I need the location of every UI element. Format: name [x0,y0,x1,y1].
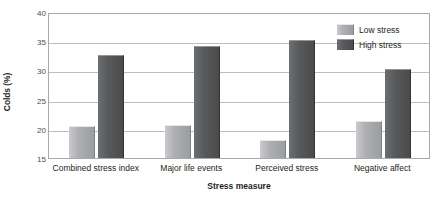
y-tick-label: 30 [20,67,46,76]
legend-swatch-icon [337,39,354,50]
legend-item[interactable]: Low stress [337,22,402,37]
y-tick-label: 40 [20,9,46,18]
legend-swatch-icon [337,24,354,35]
bar [165,125,191,158]
y-axis-title: Colds (%) [2,57,12,127]
bar [194,46,220,158]
bar [260,140,286,158]
legend-label: Low stress [359,25,400,35]
y-tick-label: 15 [20,155,46,164]
bar-chart-figure: Colds (%) 152025303540 Low stressHigh st… [0,0,447,204]
y-tick-label: 20 [20,125,46,134]
x-tick-label: Perceived stress [255,163,318,173]
chart-legend: Low stressHigh stress [337,22,402,52]
x-tick-label: Negative affect [354,163,411,173]
x-axis-tick-labels: Combined stress indexMajor life eventsPe… [48,163,430,177]
y-tick-label: 25 [20,96,46,105]
bar [289,40,315,158]
x-tick-label: Combined stress index [53,163,139,173]
bar [98,55,124,158]
bar [69,126,95,158]
x-tick-label: Major life events [160,163,222,173]
bar [356,121,382,158]
x-axis-title: Stress measure [48,181,430,191]
y-axis-tick-labels: 152025303540 [14,0,46,204]
y-tick-label: 35 [20,38,46,47]
bar [385,69,411,158]
legend-label: High stress [359,40,402,50]
legend-item[interactable]: High stress [337,37,402,52]
